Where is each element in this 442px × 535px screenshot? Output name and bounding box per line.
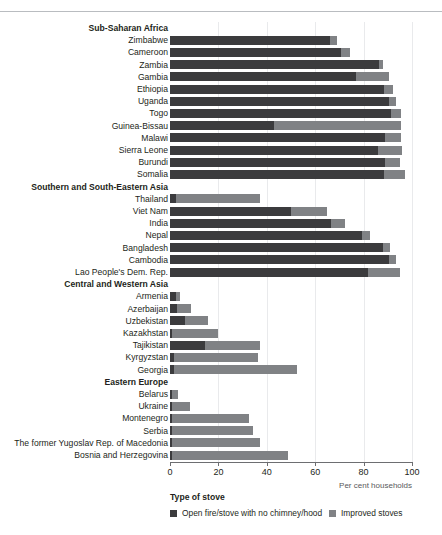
chart-data-row: Serbia xyxy=(0,425,442,437)
chart-data-row: Belarus xyxy=(0,388,442,400)
row-label: Armenia xyxy=(136,290,168,302)
bar-stack xyxy=(170,390,412,399)
chart-data-row: Cameroon xyxy=(0,46,442,58)
row-label: Gambia xyxy=(138,71,168,83)
row-label: Uganda xyxy=(138,95,168,107)
bar-segment-light xyxy=(274,121,401,130)
bar-segment-light xyxy=(391,109,401,118)
bar-stack xyxy=(170,170,412,179)
chart-group-row: Eastern Europe xyxy=(0,376,442,388)
chart-data-row: Tajikistan xyxy=(0,339,442,351)
bar-segment-light xyxy=(378,146,402,155)
bar-stack xyxy=(170,341,412,350)
chart-data-row: Viet Nam xyxy=(0,205,442,217)
legend-items: Open fire/stove with no chimney/hoodImpr… xyxy=(170,508,442,520)
bar-segment-light xyxy=(341,48,351,57)
bar-segment-light xyxy=(379,60,383,69)
bar-stack xyxy=(170,451,412,460)
bar-segment-light xyxy=(384,170,405,179)
bar-segment-dark xyxy=(170,170,384,179)
chart-data-row: India xyxy=(0,217,442,229)
chart-data-row: The former Yugoslav Rep. of Macedonia xyxy=(0,437,442,449)
bar-stack xyxy=(170,292,412,301)
bar-segment-dark xyxy=(170,316,185,325)
legend-label: Open fire/stove with no chimney/hood xyxy=(182,508,322,518)
bar-stack xyxy=(170,121,412,130)
row-label: The former Yugoslav Rep. of Macedonia xyxy=(14,437,168,449)
row-label: Bangladesh xyxy=(123,242,168,254)
bar-segment-dark xyxy=(170,109,391,118)
bar-segment-dark xyxy=(170,60,379,69)
chart-data-row: Bangladesh xyxy=(0,242,442,254)
chart-data-row: Cambodia xyxy=(0,254,442,266)
row-label: Georgia xyxy=(137,364,168,376)
bar-segment-light xyxy=(383,243,390,252)
bar-segment-light xyxy=(172,390,178,399)
x-tick xyxy=(170,462,171,466)
row-label: Southern and South-Eastern Asia xyxy=(31,181,168,193)
row-label: Malawi xyxy=(141,132,168,144)
bar-stack xyxy=(170,146,412,155)
bar-segment-light xyxy=(385,133,401,142)
bar-stack xyxy=(170,85,412,94)
bar-segment-light xyxy=(172,402,190,411)
bar-stack xyxy=(170,207,412,216)
bar-stack xyxy=(170,36,412,45)
bar-segment-light xyxy=(384,85,392,94)
bar-segment-light xyxy=(330,36,337,45)
legend-item[interactable]: Open fire/stove with no chimney/hood xyxy=(170,508,322,518)
chart-data-row: Zambia xyxy=(0,59,442,71)
bar-segment-dark xyxy=(170,72,356,81)
x-axis-title: Per cent households xyxy=(339,481,412,490)
x-tick-label: 100 xyxy=(404,467,419,477)
chart-data-row: Armenia xyxy=(0,290,442,302)
legend-swatch-icon xyxy=(329,510,336,517)
chart-data-row: Azerbaijan xyxy=(0,303,442,315)
chart-data-row: Somalia xyxy=(0,168,442,180)
row-label: Burundi xyxy=(138,156,168,168)
bar-stack xyxy=(170,97,412,106)
bar-stack xyxy=(170,72,412,81)
legend-item[interactable]: Improved stoves xyxy=(329,508,402,518)
chart-data-row: Malawi xyxy=(0,132,442,144)
bar-stack xyxy=(170,426,412,435)
row-label: Somalia xyxy=(137,168,168,180)
chart-data-row: Kazakhstan xyxy=(0,327,442,339)
legend-label: Improved stoves xyxy=(341,508,402,518)
row-label: Uzbekistan xyxy=(125,315,168,327)
row-label: Togo xyxy=(149,107,168,119)
row-label: Nepal xyxy=(146,229,168,241)
chart-data-row: Togo xyxy=(0,107,442,119)
bar-segment-light xyxy=(176,292,180,301)
bar-stack xyxy=(170,109,412,118)
bar-stack xyxy=(170,60,412,69)
bar-segment-dark xyxy=(170,304,177,313)
row-label: Kyrgyzstan xyxy=(125,351,168,363)
bar-stack xyxy=(170,194,412,203)
bar-segment-light xyxy=(385,158,400,167)
bar-segment-dark xyxy=(170,231,362,240)
row-label: Kazakhstan xyxy=(123,327,168,339)
row-label: Lao People's Dem. Rep. xyxy=(75,266,168,278)
x-tick xyxy=(364,462,365,466)
bar-segment-light xyxy=(172,329,218,338)
bar-stack xyxy=(170,133,412,142)
chart-data-row: Ethiopia xyxy=(0,83,442,95)
chart-group-row: Southern and South-Eastern Asia xyxy=(0,181,442,193)
bar-segment-light xyxy=(176,194,259,203)
bar-stack xyxy=(170,414,412,423)
bar-segment-dark xyxy=(170,85,384,94)
bar-segment-light xyxy=(362,231,369,240)
chart-data-row: Kyrgyzstan xyxy=(0,351,442,363)
bar-segment-dark xyxy=(170,97,389,106)
chart-data-row: Ukraine xyxy=(0,400,442,412)
row-label: Serbia xyxy=(143,425,168,437)
bar-segment-light xyxy=(331,219,346,228)
x-tick xyxy=(267,462,268,466)
chart-data-row: Zimbabwe xyxy=(0,34,442,46)
bar-segment-light xyxy=(177,304,190,313)
bar-stack xyxy=(170,243,412,252)
bar-segment-light xyxy=(172,414,249,423)
row-label: Montenegro xyxy=(122,412,168,424)
legend-title: Type of stove xyxy=(170,492,442,502)
